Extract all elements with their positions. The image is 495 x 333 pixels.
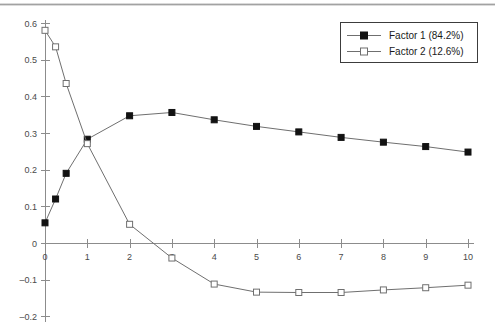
y-tick-label: –0.2 [19,312,37,322]
chart-legend: Factor 1 (84.2%) Factor 2 (12.6%) [341,23,478,63]
legend-filled-square-icon [361,32,368,39]
data-point-marker [423,285,429,291]
x-tick-label: 8 [381,252,386,262]
legend-open-square-icon [361,48,368,55]
x-tick-label: 10 [463,252,473,262]
y-tick-label: 0 [32,239,37,249]
legend-label-factor-2: Factor 2 (12.6%) [389,46,463,57]
y-tick-label: 0.6 [24,19,37,29]
data-point-marker [465,282,471,288]
data-point-marker [84,141,90,147]
data-point-marker [42,220,48,226]
legend-entry-factor-1[interactable]: Factor 1 (84.2%) [347,30,463,41]
data-point-marker [380,139,386,145]
data-point-marker [338,290,344,296]
x-tick-label: 4 [212,252,217,262]
data-point-marker [296,129,302,135]
x-axis-ticks: 012345678910 [42,239,473,262]
x-tick-label: 5 [254,252,259,262]
factor-loadings-line-chart: –0.2–0.100.10.20.30.40.50.6 012345678910… [0,0,495,333]
x-tick-label: 2 [127,252,132,262]
data-point-marker [169,255,175,261]
x-tick-label: 7 [339,252,344,262]
data-point-marker [423,144,429,150]
y-tick-label: 0.3 [24,129,37,139]
data-point-marker [338,134,344,140]
chart-screenshot: –0.2–0.100.10.20.30.40.50.6 012345678910… [0,0,495,333]
x-tick-label: 1 [85,252,90,262]
x-tick-label: 6 [296,252,301,262]
data-point-marker [63,170,69,176]
y-tick-label: 0.2 [24,165,37,175]
data-point-marker [254,289,260,295]
data-point-marker [254,123,260,129]
data-point-marker [380,287,386,293]
data-point-marker [465,149,471,155]
data-point-marker [211,117,217,123]
data-point-marker [127,221,133,227]
legend-entry-factor-2[interactable]: Factor 2 (12.6%) [347,46,463,57]
y-tick-label: 0.4 [24,92,37,102]
y-tick-label: –0.1 [19,275,37,285]
x-tick-label: 9 [423,252,428,262]
chart-axes [45,20,474,322]
data-point-marker [42,27,48,33]
data-point-marker [63,81,69,87]
legend-label-factor-1: Factor 1 (84.2%) [389,30,463,41]
y-tick-label: 0.5 [24,55,37,65]
series-1 [42,109,471,225]
y-tick-label: 0.1 [24,202,37,212]
data-point-marker [211,281,217,287]
data-point-marker [169,109,175,115]
data-point-marker [296,290,302,296]
x-tick-label: 0 [42,252,47,262]
data-point-marker [127,113,133,119]
data-point-marker [53,44,59,50]
data-point-marker [53,196,59,202]
